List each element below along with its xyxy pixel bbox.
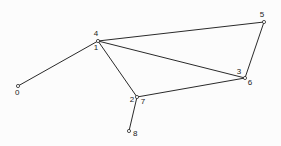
graph-node-3[interactable] — [243, 76, 246, 79]
graph-node-label-3: 3 — [237, 67, 242, 76]
graph-edge-0-4 — [18, 41, 98, 86]
graph-svg: 041536278 — [0, 0, 281, 146]
graph-node-label-0: 0 — [15, 88, 20, 97]
graph-node-label-6: 6 — [248, 78, 253, 87]
graph-node-8[interactable] — [127, 129, 130, 132]
graph-node-label-4: 4 — [94, 29, 99, 38]
graph-node-5[interactable] — [262, 20, 265, 23]
graph-node-2[interactable] — [135, 95, 138, 98]
graph-diagram-canvas: 041536278 — [0, 0, 281, 146]
graph-nodes-layer — [16, 20, 265, 132]
graph-node-label-2: 2 — [130, 95, 135, 104]
graph-node-label-1: 1 — [94, 43, 99, 52]
graph-node-label-8: 8 — [133, 129, 138, 138]
graph-node-label-5: 5 — [260, 10, 265, 19]
graph-node-label-7: 7 — [141, 97, 146, 106]
graph-edge-7-3 — [137, 78, 245, 97]
graph-edge-5-6 — [245, 22, 264, 78]
graph-edges-layer — [18, 22, 264, 131]
graph-edge-4-5 — [98, 22, 264, 41]
